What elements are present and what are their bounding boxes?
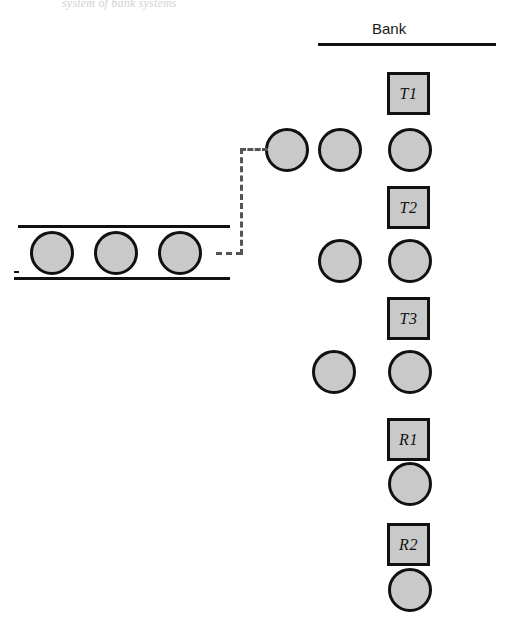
station-t3: T3: [387, 297, 430, 340]
waiting-disc: [318, 128, 362, 172]
connector-segment-vertical: [240, 148, 243, 255]
waiting-disc: [312, 350, 356, 394]
connector-segment-horizontal: [240, 148, 268, 151]
station-t1: T1: [387, 72, 430, 115]
queue-disc: [388, 568, 432, 612]
station-t2: T2: [387, 186, 430, 229]
conveyor-disc: [30, 231, 74, 275]
conveyor-disc: [158, 231, 202, 275]
station-label: R1: [399, 432, 418, 448]
conveyor-top-rail: [18, 225, 230, 228]
station-r1: R1: [387, 418, 430, 461]
queue-disc: [388, 350, 432, 394]
queue-disc: [388, 239, 432, 283]
station-label: T1: [400, 86, 418, 102]
queue-disc: [388, 128, 432, 172]
caption-fragment: system of bank systems: [62, 0, 177, 11]
connector-segment-horizontal: [216, 252, 242, 255]
station-label: T3: [400, 311, 418, 327]
station-label: T2: [400, 200, 418, 216]
conveyor-disc: [94, 231, 138, 275]
waiting-disc: [318, 239, 362, 283]
conveyor-end-tick: [14, 271, 19, 273]
conveyor-bottom-rail: [14, 277, 230, 280]
station-r2: R2: [387, 523, 430, 566]
station-label: R2: [399, 537, 418, 553]
queue-disc: [388, 462, 432, 506]
bank-header-label: Bank: [372, 20, 406, 37]
bank-header-rule: [318, 43, 496, 46]
bank-system-diagram: system of bank systems Bank T1T2T3R1R2: [0, 0, 506, 641]
waiting-disc: [265, 128, 309, 172]
